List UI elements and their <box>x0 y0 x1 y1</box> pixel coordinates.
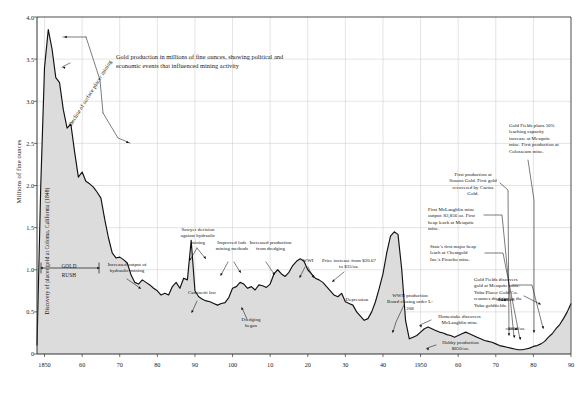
x-tick-label: 60 <box>443 361 473 368</box>
x-tick-label: 30 <box>330 361 360 368</box>
annotation-mesquite-yuba: Gold Fields discovers gold at Mesquite m… <box>474 277 526 309</box>
y-tick-label: 2.5 <box>10 140 34 147</box>
x-tick-label: 80 <box>518 361 548 368</box>
annotation-depression: Depression <box>337 297 377 303</box>
x-tick-label: 40 <box>368 361 398 368</box>
annotation-price-850: $850/oz. <box>508 326 534 332</box>
chart-canvas <box>0 0 585 396</box>
y-tick-label: 3.0 <box>10 98 34 105</box>
x-tick-label: 60 <box>67 361 97 368</box>
y-tick-label: 3.5 <box>10 56 34 63</box>
annotation-homestake-mclaughlin: Homestake discovers McLaughlin mine <box>432 314 487 327</box>
y-tick-label: 1.0 <box>10 266 34 273</box>
x-tick-label: 1850 <box>30 361 60 368</box>
annotation-sonora-cactus: First production at Sonora Gold. First g… <box>447 172 499 198</box>
y-tick-label: 0.5 <box>10 308 34 315</box>
x-tick-label: 70 <box>481 361 511 368</box>
annotation-picacho-heap-leach: State's first major heap leach at Chemgo… <box>430 244 478 263</box>
annotation-hydraulic-output: Increased output of hydraulic mining <box>107 262 147 275</box>
chart-title: Gold production in millions of fine ounc… <box>116 52 284 71</box>
annotation-improved-lode: Improved lode mining methods <box>215 240 249 253</box>
y-tick-label: 4.0 <box>10 14 34 21</box>
annotation-dredging-production: Increased production from dredging <box>249 240 292 253</box>
annotation-price-440: $440/oz. <box>498 297 524 303</box>
x-tick-label: 70 <box>105 361 135 368</box>
x-tick-label: 100 <box>218 361 248 368</box>
annotation-caminetti-law: Caminetti law <box>185 290 219 296</box>
x-tick-label: 90 <box>180 361 210 368</box>
annotation-gold-rush-line1: GOLD <box>46 263 92 269</box>
x-tick-label: 1950 <box>406 361 436 368</box>
y-axis-title: Millions of fine ounces <box>15 107 22 237</box>
annotation-hobby-production: Hobby production $850/oz. <box>438 340 483 353</box>
discovery-inside-label: Discovery of placer gold at Coloma, Cali… <box>44 163 50 339</box>
y-tick-label: 1.5 <box>10 224 34 231</box>
annotation-dredging-began: Dredging began <box>235 317 267 330</box>
annotation-sawyer-decision: Sawyer decision against hydraulic mining <box>180 227 216 246</box>
chart-figure: Millions of fine ounces Discovery of pla… <box>0 0 585 396</box>
x-tick-label: 10 <box>255 361 285 368</box>
annotation-wwi: WWI <box>297 258 319 264</box>
x-tick-label: 90 <box>556 361 585 368</box>
annotation-mclaughlin-output: First McLaughlin mine output: 83,856 oz.… <box>428 207 482 233</box>
x-tick-label: 80 <box>142 361 172 368</box>
y-tick-label: 2.0 <box>10 182 34 189</box>
annotation-wwii-order: WWII production Board closing order L-20… <box>386 293 434 312</box>
x-tick-label: 20 <box>293 361 323 368</box>
annotation-price-increase: Price increase from $20.67 to $35/oz. <box>320 258 378 271</box>
y-tick-label: 0 <box>10 350 34 357</box>
annotation-gold-fields-leaching: Gold Fields plans 50% leaching capacity … <box>509 123 559 155</box>
annotation-gold-rush-line2: RUSH <box>46 272 92 278</box>
